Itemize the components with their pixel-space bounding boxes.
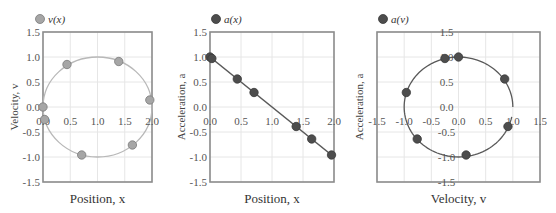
- y-tick-label: -1.5: [438, 176, 456, 188]
- y-axis-title: Velocity, v: [8, 83, 20, 130]
- x-tick-label: 0.5: [63, 115, 77, 127]
- data-point-marker: [327, 151, 335, 159]
- y-tick-label: 1.0: [26, 51, 40, 63]
- x-tick-label: 1.0: [91, 115, 105, 127]
- data-point-marker: [39, 103, 47, 111]
- y-tick-label: -0.5: [190, 126, 208, 138]
- data-point-marker: [233, 75, 241, 83]
- x-axis-title: Position, x: [244, 191, 300, 206]
- data-point-marker: [402, 88, 410, 96]
- x-tick-label: 0.5: [234, 115, 248, 127]
- data-point-marker: [504, 122, 512, 130]
- legend-marker-icon: [379, 15, 388, 24]
- x-tick-label: -1.5: [368, 115, 386, 127]
- data-point-marker: [307, 135, 315, 143]
- x-axis-title: Velocity, v: [431, 191, 487, 206]
- y-tick-label: 1.5: [440, 26, 454, 38]
- legend-label: a(v): [391, 13, 409, 26]
- data-point-marker: [208, 54, 216, 62]
- y-tick-label: -1.5: [23, 176, 41, 188]
- x-tick-label: 1.0: [265, 115, 279, 127]
- y-tick-label: 0.0: [440, 101, 454, 113]
- y-tick-label: -1.0: [438, 151, 456, 163]
- data-point-marker: [462, 151, 470, 159]
- x-tick-label: 2.0: [145, 115, 159, 127]
- x-tick-label: 2.0: [327, 115, 341, 127]
- y-tick-label: 0.0: [193, 101, 207, 113]
- data-point-marker: [63, 60, 71, 68]
- y-tick-label: 1.5: [26, 26, 40, 38]
- y-tick-label: -1.0: [23, 151, 41, 163]
- chart-canvas: 0.00.51.01.52.01.51.00.50.0-0.5-1.0-1.5v…: [0, 0, 556, 213]
- data-point-marker: [292, 122, 300, 130]
- gridlines: [43, 32, 152, 182]
- data-point-marker: [500, 75, 508, 83]
- x-tick-label: -1.0: [395, 115, 413, 127]
- y-tick-label: 0.5: [193, 76, 207, 88]
- chart-acceleration-vs-position: 0.00.51.01.52.01.51.00.50.0-0.5-1.0-1.5a…: [175, 13, 341, 206]
- y-tick-label: 0.0: [26, 101, 40, 113]
- data-point-marker: [413, 135, 421, 143]
- legend-label: a(x): [224, 13, 242, 26]
- x-tick-label: 1.5: [533, 115, 547, 127]
- y-axis-title: Acceleration, a: [175, 74, 187, 141]
- data-point-marker: [77, 151, 85, 159]
- x-tick-label: 0.5: [479, 115, 493, 127]
- y-tick-label: 0.5: [440, 76, 454, 88]
- chart-acceleration-vs-velocity: -1.5-1.0-0.50.00.51.01.51.51.00.50.0-0.5…: [353, 13, 547, 206]
- y-tick-label: 1.0: [193, 51, 207, 63]
- data-point-marker: [146, 96, 154, 104]
- legend-label: v(x): [48, 13, 65, 26]
- legend-marker-icon: [212, 15, 221, 24]
- data-point-marker: [40, 115, 48, 123]
- legend-marker-icon: [36, 15, 45, 24]
- y-tick-label: 0.5: [26, 76, 40, 88]
- data-point-marker: [441, 54, 449, 62]
- y-tick-label: -0.5: [438, 126, 456, 138]
- legend: v(x): [36, 13, 66, 26]
- x-axis-title: Position, x: [70, 191, 126, 206]
- data-point-marker: [250, 88, 258, 96]
- y-axis-title: Acceleration, a: [353, 74, 365, 141]
- x-tick-label: 1.5: [118, 115, 132, 127]
- y-tick-label: -1.0: [190, 151, 208, 163]
- legend: a(x): [212, 13, 243, 26]
- data-point-marker: [454, 53, 462, 61]
- chart-velocity-vs-position: 0.00.51.01.52.01.51.00.50.0-0.5-1.0-1.5v…: [8, 13, 159, 206]
- y-tick-label: 1.5: [193, 26, 207, 38]
- legend: a(v): [379, 13, 410, 26]
- data-point-marker: [128, 141, 136, 149]
- y-tick-label: -0.5: [23, 126, 41, 138]
- data-point-marker: [115, 57, 123, 65]
- y-tick-label: -1.5: [190, 176, 208, 188]
